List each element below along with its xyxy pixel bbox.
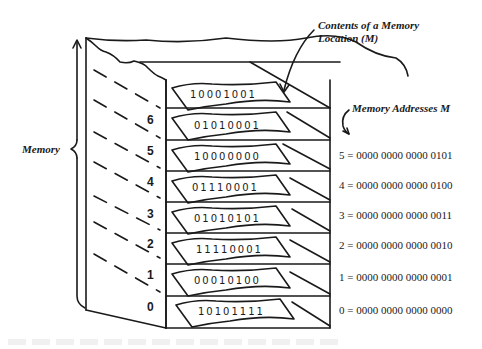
address-value: 5 = 0000 0000 0000 0101 [339,149,452,161]
location-index: 2 [147,237,154,251]
address-value: 0 = 0000 0000 0000 0000 [339,304,453,316]
location-index: 3 [147,207,154,221]
contents-value: 00010100 [194,275,261,286]
memory-label: Memory [21,143,60,155]
contents-value: 10101111 [198,306,265,317]
contents-value: 10000000 [194,151,261,162]
location-index: 0 [147,300,154,314]
contents-value: 01010101 [194,213,261,224]
addresses-label: Memory Addresses M [351,102,451,114]
memory-brace [71,40,85,308]
contents-value: 10001001 [190,89,257,100]
address-value: 4 = 0000 0000 0000 0100 [339,179,453,191]
shelf-diagonals [283,112,330,326]
contents-label-line2: Location (M) [317,32,378,45]
contents-value: 01110001 [192,182,259,193]
contents-value: 11110001 [196,244,263,255]
address-value: 3 = 0000 0000 0000 0011 [339,209,452,221]
addresses-arrow [343,110,349,134]
address-value: 2 = 0000 0000 0000 0010 [339,239,453,251]
memory-diagram: Memory [0,0,482,349]
location-index: 1 [147,268,154,282]
location-index: 5 [147,144,154,158]
location-index: 6 [147,113,154,127]
location-index: 4 [147,175,154,189]
contents-label-line1: Contents of a Memory [318,19,419,31]
figure-caption-cropped [8,339,338,345]
address-value: 1 = 0000 0000 0000 0001 [339,271,452,283]
contents-value: 01010001 [194,120,261,131]
